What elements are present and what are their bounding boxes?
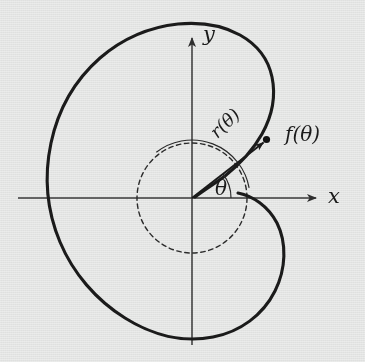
polar-spiral-figure: y x θ r(θ) f(θ) (0, 0, 365, 362)
spiral-curve (47, 23, 284, 339)
figure-canvas (0, 0, 365, 362)
theta-angle-label: θ (215, 178, 227, 198)
f-theta-point-marker (263, 136, 270, 143)
x-axis-label: x (328, 186, 340, 207)
radius-vector-arrow (192, 143, 264, 199)
f-theta-point-label: f(θ) (285, 124, 320, 144)
y-axis-label: y (203, 24, 215, 45)
